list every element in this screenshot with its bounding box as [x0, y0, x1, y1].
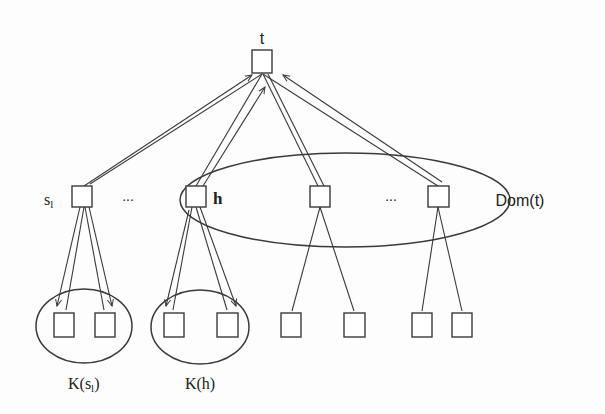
label-k-s1: K(sl) — [68, 375, 100, 394]
label-k-h: K(h) — [185, 375, 215, 393]
leaf-4-1 — [412, 313, 432, 337]
root-node-t — [252, 50, 272, 73]
leaf-h-1 — [164, 313, 184, 337]
edges-to-leaves — [57, 207, 462, 311]
tree-diagram: t sl h ... ... Dom(t) K(sl) K(h) — [0, 0, 605, 414]
leaf-h-2 — [217, 313, 238, 337]
dom-ellipse — [180, 153, 510, 247]
leaf-s1-1 — [54, 313, 74, 337]
leaf-4-2 — [452, 313, 472, 337]
node-h — [186, 186, 206, 207]
leaf-s1-2 — [95, 313, 115, 337]
k-s1-ellipse — [36, 289, 132, 363]
dom-label: Dom(t) — [496, 192, 545, 209]
node-dom-4 — [428, 186, 449, 207]
label-h: h — [213, 189, 223, 208]
node-dom-3 — [310, 186, 330, 207]
edges-to-root — [84, 74, 442, 186]
label-s1: sl — [44, 191, 53, 210]
leaf-3-1 — [281, 313, 301, 337]
leaf-3-2 — [344, 313, 365, 337]
root-label: t — [260, 30, 265, 47]
ellipsis-right: ... — [385, 188, 397, 204]
leaf-nodes — [54, 313, 472, 337]
node-s1 — [72, 186, 92, 207]
ellipsis-left: ... — [122, 188, 134, 204]
